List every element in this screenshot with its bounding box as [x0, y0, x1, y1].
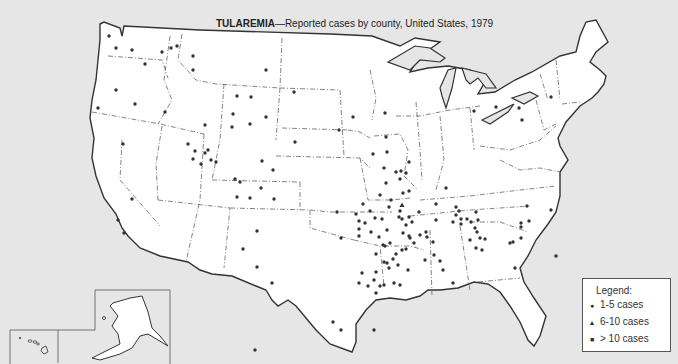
case-dot-1-5: [337, 128, 340, 131]
case-dot-1-5: [474, 246, 477, 249]
case-dot-1-5: [163, 110, 166, 113]
case-dot-1-5: [389, 198, 392, 201]
case-dot-1-5: [398, 177, 401, 180]
case-dot-1-5: [169, 46, 172, 49]
case-dot-1-5: [260, 159, 263, 162]
case-dot-1-5: [423, 258, 426, 261]
case-dot-1-5: [357, 227, 360, 230]
case-dot-1-5: [424, 230, 427, 233]
case-dot-1-5: [508, 241, 511, 244]
case-dot-1-5: [209, 158, 212, 161]
case-dot-1-5: [457, 209, 460, 212]
case-dot-1-5: [259, 186, 262, 189]
case-dot-1-5: [116, 218, 119, 221]
case-dot-1-5: [373, 216, 376, 219]
case-dot-1-5: [357, 234, 360, 237]
case-dot-1-5: [143, 62, 146, 65]
us-outline: [90, 20, 608, 352]
case-dot-1-5: [404, 247, 407, 250]
case-dot-1-5: [412, 241, 415, 244]
case-dot-1-5: [293, 140, 296, 143]
case-dot-1-5: [339, 236, 342, 239]
case-dot-1-5: [469, 220, 472, 223]
case-dot-1-5: [431, 240, 434, 243]
case-dot-1-5: [385, 228, 388, 231]
case-dot-1-5: [255, 265, 258, 268]
case-dot-1-5: [374, 252, 377, 255]
legend-label: 1-5 cases: [600, 299, 643, 310]
case-dot-1-5: [175, 44, 178, 47]
case-dot-1-5: [193, 149, 196, 152]
case-dot-1-5: [438, 259, 441, 262]
case-dot-1-5: [133, 102, 136, 105]
case-dot-1-5: [107, 34, 110, 37]
case-dot-1-5: [434, 202, 437, 205]
case-dot-1-5: [191, 157, 194, 160]
title-subtitle: —Reported cases by county, United States…: [275, 18, 493, 29]
case-dot-1-5: [517, 106, 520, 109]
case-dot-1-5: [233, 177, 236, 180]
case-dot-1-5: [396, 263, 399, 266]
case-dot-1-5: [203, 123, 206, 126]
case-dot-1-5: [554, 254, 557, 257]
case-dot-1-5: [231, 112, 234, 115]
case-dot-1-5: [473, 226, 476, 229]
case-dot-1-5: [407, 215, 410, 218]
case-dot-1-5: [410, 220, 413, 223]
case-dot-1-5: [253, 348, 256, 351]
case-dot-1-5: [520, 118, 523, 121]
case-dot-1-5: [374, 270, 377, 273]
case-dot-1-5: [417, 210, 420, 213]
circle-icon: ●: [588, 302, 596, 309]
case-dot-1-5: [511, 240, 514, 243]
legend-item-6-10: ▲6-10 cases: [588, 316, 649, 327]
case-dot-1-5: [441, 268, 444, 271]
case-dot-1-5: [387, 266, 390, 269]
case-dot-1-5: [394, 170, 397, 173]
legend: Legend: ●1-5 cases ▲6-10 cases ■> 10 cas…: [582, 278, 671, 352]
case-dot-1-5: [363, 221, 366, 224]
case-dot-1-5: [434, 218, 437, 221]
case-dot-1-5: [230, 125, 233, 128]
case-dot-1-5: [361, 202, 364, 205]
case-dot-1-5: [248, 122, 251, 125]
case-dot-1-5: [241, 247, 244, 250]
case-dot-1-5: [191, 68, 194, 71]
case-dot-1-5: [378, 284, 381, 287]
case-dot-1-5: [407, 189, 410, 192]
hawaii-inset: [10, 330, 58, 364]
case-dot-1-5: [549, 95, 552, 98]
case-dot-1-5: [418, 233, 421, 236]
case-dot-1-5: [404, 171, 407, 174]
case-dot-1-5: [374, 291, 377, 294]
case-dot-1-5: [357, 219, 360, 222]
case-dot-1-5: [351, 115, 354, 118]
case-dot-1-5: [476, 218, 479, 221]
case-dot-1-5: [372, 278, 375, 281]
case-dot-1-5: [394, 252, 397, 255]
case-dot-1-5: [130, 48, 133, 51]
case-dot-1-5: [380, 217, 383, 220]
case-dot-1-5: [382, 260, 385, 263]
case-dot-1-5: [385, 261, 388, 264]
case-dot-1-5: [122, 231, 125, 234]
case-dot-1-5: [331, 320, 334, 323]
case-dot-1-5: [472, 109, 475, 112]
case-dot-1-5: [459, 217, 462, 220]
case-dot-1-5: [407, 160, 410, 163]
case-dot-1-5: [404, 223, 407, 226]
case-dot-1-5: [354, 212, 357, 215]
case-dot-1-5: [271, 168, 274, 171]
case-dot-1-5: [357, 281, 360, 284]
case-dot-1-5: [369, 230, 372, 233]
case-dot-1-5: [400, 217, 403, 220]
case-dot-1-5: [494, 105, 497, 108]
case-dot-1-5: [519, 221, 522, 224]
case-dot-1-5: [388, 241, 391, 244]
case-dot-1-5: [160, 50, 163, 53]
case-dot-1-5: [451, 220, 454, 223]
case-dot-1-5: [525, 204, 528, 207]
case-dot-1-5: [366, 284, 369, 287]
case-dot-1-5: [513, 266, 516, 269]
legend-label: > 10 cases: [600, 333, 649, 344]
